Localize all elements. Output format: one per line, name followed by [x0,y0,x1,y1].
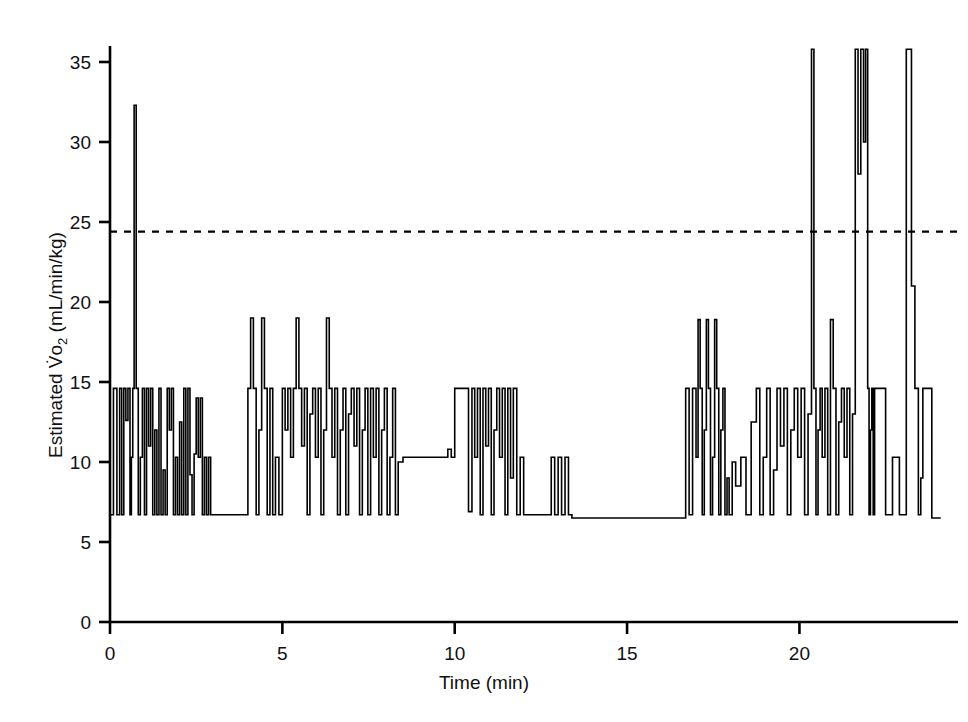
y-tick-label: 5 [80,532,91,553]
x-tick-label: 20 [789,643,810,664]
ticks-group [99,62,799,634]
y-axis-label-units: (mL/min/kg) [45,232,66,338]
y-axis-label-prefix: Estimated V̇ [45,355,66,457]
y-axis-label-o: o [45,345,66,356]
ticklabels-group: 0510152025303505101520 [70,52,810,664]
x-tick-label: 10 [444,643,465,664]
x-tick-label: 0 [105,643,116,664]
x-axis-label: Time (min) [0,672,968,694]
y-axis-label: Estimated V̇o2 (mL/min/kg) [45,25,75,665]
vo2-time-chart: 0510152025303505101520 Estimated V̇o2 (m… [0,0,968,722]
x-tick-label: 5 [277,643,288,664]
x-tick-label: 15 [617,643,638,664]
y-axis-label-sub: 2 [55,338,70,345]
y-tick-label: 0 [80,612,91,633]
vo2-trace-line [110,49,941,518]
plot-canvas: 0510152025303505101520 [0,0,968,722]
